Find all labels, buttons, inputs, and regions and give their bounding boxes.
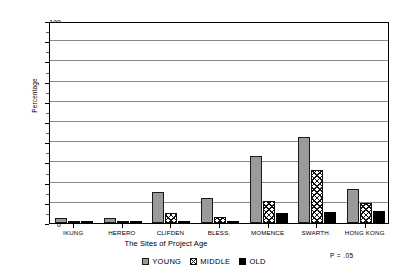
x-axis-tick-mark <box>170 224 171 228</box>
x-axis-tick-mark <box>316 224 317 228</box>
legend-item-old: OLD <box>239 257 265 266</box>
bar-old <box>276 213 288 223</box>
bar-young <box>250 156 262 223</box>
bar-group <box>293 23 342 223</box>
legend-swatch-middle-icon <box>190 258 197 265</box>
bar-old <box>373 211 385 223</box>
bar-old <box>130 221 142 223</box>
bar-old <box>324 212 336 223</box>
plot-area <box>49 22 389 224</box>
bar-chart: Percentage 0102030405060708090100 IKUNGH… <box>0 0 408 277</box>
bar-old <box>227 221 239 223</box>
legend-swatch-old-icon <box>239 258 246 265</box>
bar-middle <box>263 201 275 223</box>
x-axis-label-swarth: SWARTH. <box>302 229 331 236</box>
bar-middle <box>360 203 372 223</box>
legend-item-middle: MIDDLE <box>190 257 230 266</box>
x-axis-label-bless: BLESS. <box>208 229 231 236</box>
y-axis-title: Percentage <box>31 64 38 128</box>
x-axis-tick-mark <box>219 224 220 228</box>
bar-young <box>201 198 213 223</box>
legend-swatch-young-icon <box>142 258 149 265</box>
bar-young <box>104 218 116 223</box>
x-axis-tick-mark <box>268 224 269 228</box>
bar-group <box>196 23 245 223</box>
x-axis-tick-mark <box>365 224 366 228</box>
x-axis-title: The Sites of Project Age <box>0 239 408 248</box>
x-axis-label-ikung: IKUNG <box>63 229 83 236</box>
plot-inner <box>50 23 388 223</box>
bar-young <box>55 218 67 223</box>
bar-group <box>99 23 148 223</box>
x-axis-label-herero: HERERO <box>108 229 135 236</box>
legend-item-young: YOUNG <box>142 257 181 266</box>
bar-middle <box>117 221 129 223</box>
chart-legend: YOUNGMIDDLEOLD <box>0 257 408 266</box>
x-axis-label-clifden: CLIFDEN <box>157 229 185 236</box>
legend-label: MIDDLE <box>200 257 230 266</box>
x-axis-title-text: The Sites of Project Age <box>125 239 208 248</box>
bar-young <box>152 192 164 223</box>
x-axis-label-momence: MOMENCE <box>251 229 284 236</box>
bar-group <box>244 23 293 223</box>
bar-middle <box>68 221 80 223</box>
legend-label: OLD <box>249 257 265 266</box>
x-axis-label-hong-kong: HONG KONG <box>345 229 385 236</box>
bar-middle <box>165 213 177 223</box>
x-axis-tick-mark <box>73 224 74 228</box>
bar-young <box>298 137 310 223</box>
bar-old <box>178 221 190 223</box>
bar-old <box>81 221 93 223</box>
bar-group <box>50 23 99 223</box>
bar-young <box>347 189 359 223</box>
legend-label: YOUNG <box>152 257 181 266</box>
bar-middle <box>311 170 323 223</box>
bar-group <box>341 23 388 223</box>
x-axis-tick-mark <box>122 224 123 228</box>
bar-group <box>147 23 196 223</box>
y-axis-tick-mark <box>45 224 49 225</box>
bar-middle <box>214 217 226 223</box>
